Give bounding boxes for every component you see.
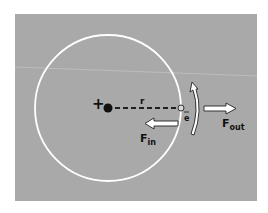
orbit-diagram: + r e Fin Fout bbox=[0, 0, 268, 213]
f-in-subscript: in bbox=[148, 138, 157, 147]
plus-sign: + bbox=[92, 95, 105, 113]
electron-label: e bbox=[184, 114, 190, 123]
f-out-subscript: out bbox=[230, 123, 245, 132]
nucleus bbox=[104, 104, 113, 113]
electron bbox=[178, 105, 184, 111]
radius-label: r bbox=[140, 96, 145, 106]
